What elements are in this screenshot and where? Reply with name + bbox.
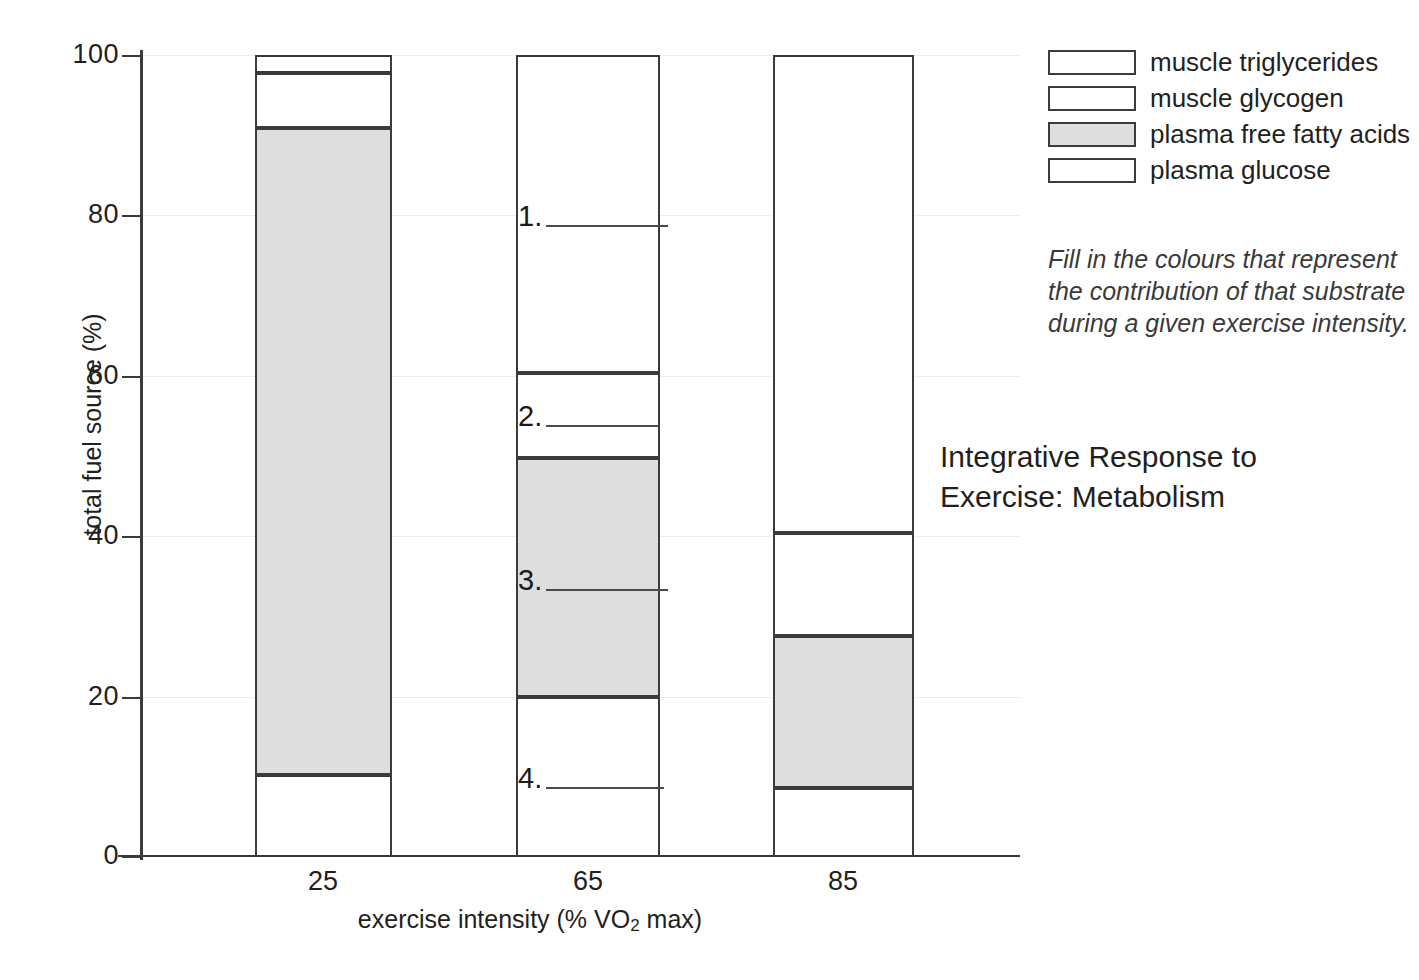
caption-line-2: Exercise: Metabolism bbox=[940, 477, 1360, 517]
x-tick-label-25: 25 bbox=[233, 866, 413, 897]
answer-blank-3[interactable]: 3. bbox=[518, 564, 668, 597]
answer-blank-2-number: 2. bbox=[518, 400, 542, 433]
bar-85-segment-plasma-free-fatty-acids bbox=[773, 636, 914, 788]
answer-blank-2[interactable]: 2. bbox=[518, 400, 658, 433]
legend-swatch-muscle-glycogen bbox=[1048, 86, 1136, 111]
x-tick-label-65: 65 bbox=[498, 866, 678, 897]
answer-blank-4-rule[interactable] bbox=[546, 787, 664, 789]
bar-85-segment-plasma-glucose bbox=[773, 788, 914, 857]
y-tick-40 bbox=[122, 536, 140, 538]
bar-25-segment-muscle-triglycerides bbox=[255, 55, 392, 73]
bar-25-segment-plasma-free-fatty-acids bbox=[255, 128, 392, 775]
caption-title: Integrative Response to Exercise: Metabo… bbox=[940, 437, 1360, 517]
answer-blank-1-number: 1. bbox=[518, 200, 542, 233]
caption-line-1: Integrative Response to bbox=[940, 437, 1360, 477]
bar-25-segment-muscle-glycogen bbox=[255, 73, 392, 128]
y-tick-100 bbox=[122, 55, 140, 57]
y-axis-line bbox=[140, 50, 143, 860]
y-tick-label-80: 80 bbox=[29, 199, 119, 230]
legend-swatch-plasma-free-fatty-acids bbox=[1048, 122, 1136, 147]
answer-blank-1[interactable]: 1. bbox=[518, 200, 668, 233]
x-axis-title: exercise intensity (% VO2 max) bbox=[180, 905, 880, 936]
legend-swatch-muscle-triglycerides bbox=[1048, 50, 1136, 75]
y-tick-label-0: 0 bbox=[29, 840, 119, 871]
y-tick-20 bbox=[122, 697, 140, 699]
bar-65 bbox=[516, 55, 660, 857]
y-axis-title: total fuel source (%) bbox=[78, 275, 107, 575]
answer-blank-2-rule[interactable] bbox=[546, 425, 658, 427]
chart-page: 100 80 60 40 20 0 total fuel source (%) … bbox=[0, 0, 1419, 980]
bar-85-segment-muscle-glycogen bbox=[773, 533, 914, 636]
answer-blank-3-number: 3. bbox=[518, 564, 542, 597]
legend-item-muscle-triglycerides[interactable]: muscle triglycerides bbox=[1048, 46, 1408, 78]
x-tick-label-85: 85 bbox=[753, 866, 933, 897]
legend-item-plasma-free-fatty-acids[interactable]: plasma free fatty acids bbox=[1048, 118, 1408, 150]
legend-item-muscle-glycogen[interactable]: muscle glycogen bbox=[1048, 82, 1408, 114]
legend-label-plasma-free-fatty-acids: plasma free fatty acids bbox=[1150, 119, 1410, 150]
bar-85 bbox=[773, 55, 914, 857]
x-axis-title-pre: exercise intensity (% VO bbox=[358, 905, 630, 933]
legend-item-plasma-glucose[interactable]: plasma glucose bbox=[1048, 154, 1408, 186]
answer-blank-4[interactable]: 4. bbox=[518, 762, 664, 795]
y-tick-label-100: 100 bbox=[29, 39, 119, 70]
x-axis-title-post: max) bbox=[640, 905, 703, 933]
bar-85-segment-muscle-triglycerides bbox=[773, 55, 914, 533]
legend-label-muscle-triglycerides: muscle triglycerides bbox=[1150, 47, 1378, 78]
legend-label-muscle-glycogen: muscle glycogen bbox=[1150, 83, 1344, 114]
answer-blank-3-rule[interactable] bbox=[546, 589, 668, 591]
y-tick-label-20: 20 bbox=[29, 681, 119, 712]
legend-label-plasma-glucose: plasma glucose bbox=[1150, 155, 1331, 186]
answer-blank-4-number: 4. bbox=[518, 762, 542, 795]
instruction-text: Fill in the colours that represent the c… bbox=[1048, 243, 1418, 339]
answer-blank-1-rule[interactable] bbox=[546, 225, 668, 227]
bar-25-segment-plasma-glucose bbox=[255, 775, 392, 857]
x-axis-title-sub: 2 bbox=[630, 916, 639, 935]
legend: muscle triglycerides muscle glycogen pla… bbox=[1048, 46, 1408, 190]
legend-swatch-plasma-glucose bbox=[1048, 158, 1136, 183]
y-tick-80 bbox=[122, 215, 140, 217]
y-tick-60 bbox=[122, 376, 140, 378]
bar-25 bbox=[255, 55, 392, 857]
